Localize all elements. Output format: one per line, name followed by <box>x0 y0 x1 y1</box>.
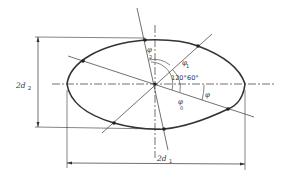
label-phi: φ <box>205 91 210 99</box>
arrow-icon <box>67 162 72 165</box>
point <box>196 44 200 48</box>
label-phi2: φ <box>147 46 152 54</box>
dim1-line <box>67 163 245 164</box>
point <box>226 107 230 111</box>
point <box>81 59 85 63</box>
label-phi1-sub: 1 <box>186 63 189 69</box>
label-2d1-sub: 1 <box>169 158 172 164</box>
label-phi0-sub: 0 <box>180 105 183 111</box>
point <box>162 127 166 131</box>
label-phi2-sub: 2 <box>149 54 152 60</box>
ellipse-diagram: φ 2 φ 1 120° 60° φ 0 φ 2d 2 2d 1 <box>0 0 287 179</box>
label-2d2: 2d <box>15 81 26 90</box>
center-point <box>153 82 156 85</box>
arc-phi <box>202 85 204 100</box>
label-60: 60° <box>187 74 199 82</box>
arrow-icon <box>240 163 245 166</box>
label-2d2-sub: 2 <box>28 85 31 91</box>
axis-phi0 <box>68 56 254 117</box>
label-120: 120° <box>171 74 187 82</box>
arrow-icon <box>37 122 40 127</box>
label-2d1: 2d <box>156 154 167 163</box>
arrow-icon <box>37 37 40 42</box>
axis-phi1 <box>102 34 212 133</box>
point <box>112 121 116 125</box>
dim2-ext-top <box>35 37 145 38</box>
point <box>143 38 147 42</box>
